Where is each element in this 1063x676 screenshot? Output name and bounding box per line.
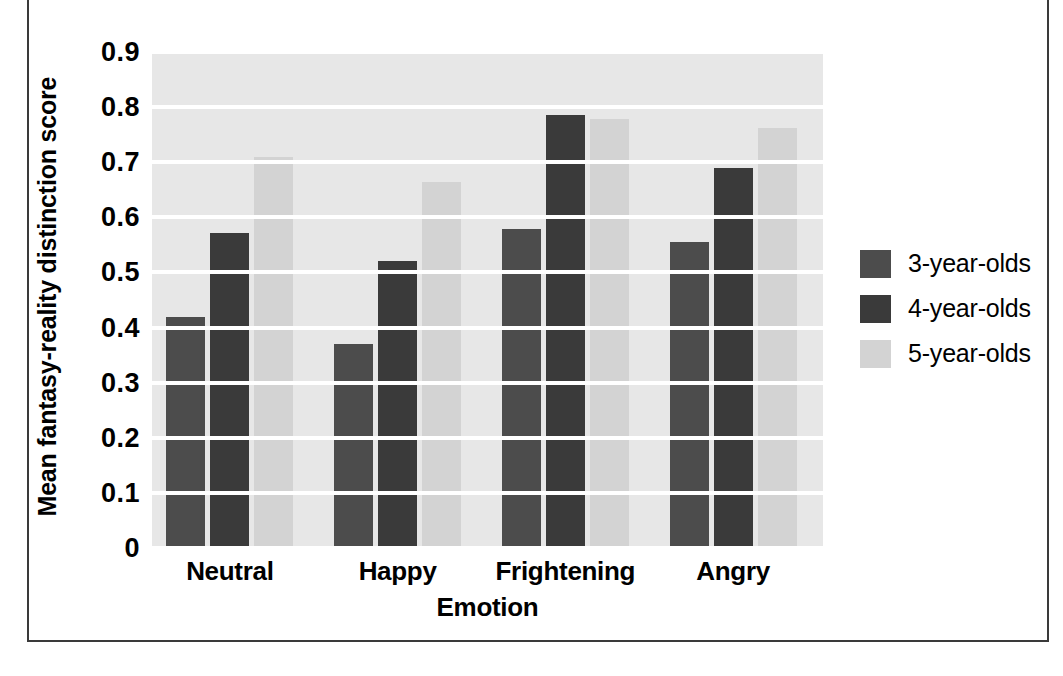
y-tick-label: 0.7 xyxy=(72,149,140,176)
bars-layer xyxy=(152,52,823,548)
bar xyxy=(670,242,709,548)
y-tick-label: 0.4 xyxy=(72,314,140,341)
bar-group xyxy=(152,52,320,548)
y-tick-label: 0.9 xyxy=(72,39,140,66)
x-axis-title: Emotion xyxy=(152,592,823,623)
legend-swatch-icon xyxy=(860,250,891,278)
x-tick-label: Neutral xyxy=(186,556,273,587)
bar-group xyxy=(488,52,656,548)
bar-group xyxy=(655,52,823,548)
x-tick-label: Frightening xyxy=(496,556,636,587)
bar xyxy=(422,182,461,548)
y-tick-label: 0.1 xyxy=(72,479,140,506)
bar xyxy=(758,128,797,548)
grouped-bar-chart: 0.90.80.70.60.50.40.30.20.10 Mean fantas… xyxy=(0,0,1063,676)
y-tick-label: 0.3 xyxy=(72,369,140,396)
y-tick-label: 0.5 xyxy=(72,259,140,286)
bar-group xyxy=(320,52,488,548)
bar xyxy=(334,344,373,548)
legend: 3-year-olds4-year-olds5-year-olds xyxy=(860,241,1031,376)
legend-item: 3-year-olds xyxy=(860,241,1031,286)
bar xyxy=(210,233,249,548)
y-tick-label: 0.2 xyxy=(72,424,140,451)
legend-swatch-icon xyxy=(860,340,891,368)
bar xyxy=(546,115,585,548)
x-tick-label: Angry xyxy=(696,556,770,587)
x-tick-label: Happy xyxy=(359,556,437,587)
bar xyxy=(590,119,629,548)
legend-label: 4-year-olds xyxy=(908,294,1031,323)
bar xyxy=(378,261,417,548)
bar xyxy=(254,157,293,548)
legend-swatch-icon xyxy=(860,295,891,323)
y-tick-label: 0 xyxy=(72,535,140,562)
y-tick-label: 0.8 xyxy=(72,94,140,121)
y-axis-ticks: 0.90.80.70.60.50.40.30.20.10 xyxy=(72,52,140,548)
legend-item: 5-year-olds xyxy=(860,331,1031,376)
legend-label: 5-year-olds xyxy=(908,339,1031,368)
legend-item: 4-year-olds xyxy=(860,286,1031,331)
y-tick-label: 0.6 xyxy=(72,204,140,231)
x-axis-ticks: NeutralHappyFrighteningAngry xyxy=(152,556,823,596)
bar xyxy=(166,317,205,548)
bar xyxy=(714,168,753,548)
y-axis-title: Mean fantasy-reality distinction score xyxy=(33,97,62,517)
bar xyxy=(502,229,541,548)
legend-label: 3-year-olds xyxy=(908,249,1031,278)
